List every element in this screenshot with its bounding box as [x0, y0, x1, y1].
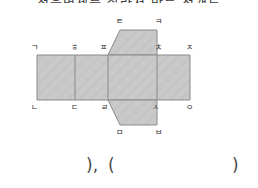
- vertex-label-bottom-flap-left: ㅁ: [116, 129, 123, 137]
- vertex-label-row-bottom-2: ㄷ: [71, 104, 78, 112]
- net-figure: ㅌ ㅋ ㄱ ㅎ ㅍ ㅊ ㅈ ㄴ ㄷ ㄹ ㅅ ㅇ ㅁ ㅂ: [0, 8, 258, 156]
- top-caption-text: 정육면체를 잘라서 만든 전개도: [0, 0, 258, 3]
- vertex-label-bottom-flap-right: ㅂ: [155, 129, 162, 137]
- vertex-label-row-top-4: ㅊ: [155, 44, 162, 52]
- answer-line: ), ( ): [0, 152, 258, 186]
- answer-close-paren-2: ): [232, 155, 239, 175]
- answer-open-paren: (: [108, 155, 115, 175]
- vertex-label-row-top-5: ㅈ: [186, 44, 193, 52]
- vertex-label-row-bottom-5: ㅇ: [186, 104, 193, 112]
- bottom-flap-face: [108, 100, 157, 125]
- main-band-face: [37, 55, 190, 100]
- net-figure-svg: [0, 8, 258, 156]
- top-flap-face: [108, 30, 157, 55]
- screenshot-root: 정육면체를 잘라서 만든 전개도 ㅌ ㅋ ㄱ ㅎ ㅍ: [0, 0, 258, 188]
- vertex-label-row-bottom-3: ㄹ: [101, 104, 108, 112]
- vertex-label-row-top-3: ㅍ: [100, 44, 107, 52]
- vertex-label-row-top-2: ㅎ: [71, 44, 78, 52]
- vertex-label-top-flap-right: ㅋ: [155, 18, 162, 26]
- vertex-label-row-bottom-1: ㄴ: [31, 104, 38, 112]
- vertex-label-row-top-1: ㄱ: [31, 44, 38, 52]
- vertex-label-top-flap-left: ㅌ: [116, 18, 123, 26]
- answer-close-paren-1: ),: [86, 155, 98, 175]
- vertex-label-row-bottom-4: ㅅ: [152, 104, 159, 112]
